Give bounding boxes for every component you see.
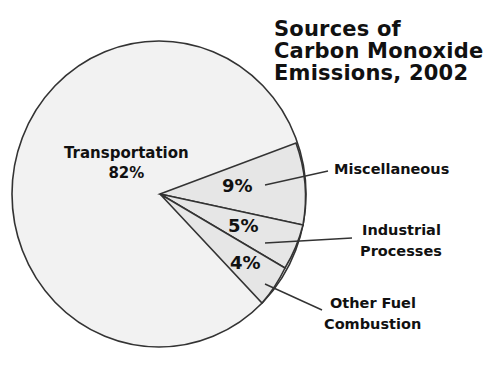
label-other: Other Fuel Combustion	[324, 293, 421, 335]
transportation-pct: 82%	[64, 163, 189, 183]
industrial-line-1: Industrial	[360, 220, 442, 241]
leader-other	[265, 284, 322, 310]
label-transportation: Transportation 82%	[64, 143, 189, 183]
label-misc: Miscellaneous	[334, 159, 449, 180]
label-industrial: Industrial Processes	[360, 220, 442, 262]
transportation-text: Transportation	[64, 143, 189, 163]
pct-industrial: 5%	[228, 215, 259, 236]
pct-other: 4%	[230, 252, 261, 273]
other-line-1: Other Fuel	[324, 293, 421, 314]
industrial-line-2: Processes	[360, 241, 442, 262]
pct-misc: 9%	[222, 175, 253, 196]
other-line-2: Combustion	[324, 314, 421, 335]
